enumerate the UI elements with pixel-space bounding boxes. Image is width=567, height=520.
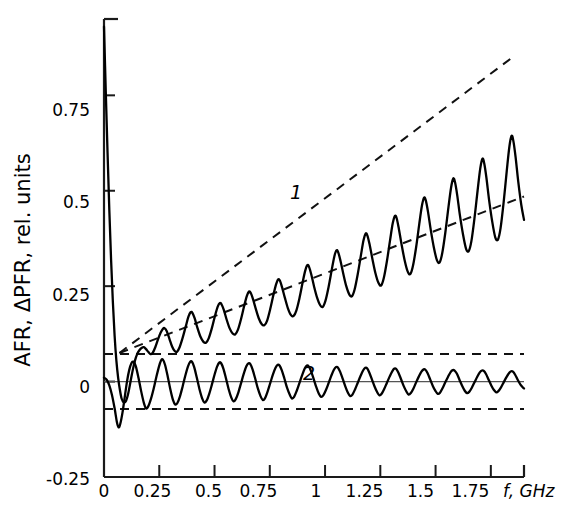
chart-figure: AFR, ΔPFR, rel. units 0.75 0.5 0.25 0 -0… xyxy=(0,0,567,520)
x-tick-label-0.25: 0.25 xyxy=(125,481,180,501)
y-tick-label-0: 0 xyxy=(22,377,90,397)
y-tick-label-0.5: 0.5 xyxy=(22,192,90,212)
y-tick-label-0.75: 0.75 xyxy=(22,100,90,120)
x-tick-label-0.75: 0.75 xyxy=(231,481,286,501)
upper-envelope-curve-1 xyxy=(119,55,515,353)
x-tick-label-1: 1 xyxy=(296,481,336,501)
x-tick-label-1.5: 1.5 xyxy=(398,481,443,501)
x-tick-label-1.75: 1.75 xyxy=(443,481,498,501)
x-tick-label-1.25: 1.25 xyxy=(337,481,392,501)
series-curve-1 xyxy=(104,27,524,403)
curve-2-annotation: 2 xyxy=(303,362,315,384)
y-tick-label-0.25: 0.25 xyxy=(22,285,90,305)
x-axis-label: f, GHz xyxy=(503,481,554,501)
curve-1-annotation: 1 xyxy=(290,181,302,203)
lower-envelope-curve-1 xyxy=(119,196,524,352)
x-axis-label-text: f, GHz xyxy=(503,481,554,501)
y-tick-label--0.25: -0.25 xyxy=(8,469,90,489)
x-tick-label-0: 0 xyxy=(84,481,124,501)
x-tick-label-0.5: 0.5 xyxy=(186,481,231,501)
plot-canvas xyxy=(0,0,567,520)
